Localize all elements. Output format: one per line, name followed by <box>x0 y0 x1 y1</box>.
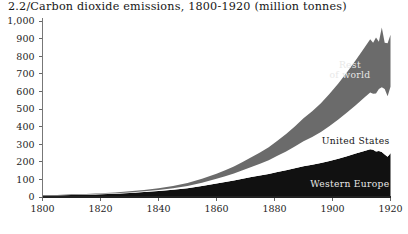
y-tick-label: 300 <box>16 139 34 150</box>
x-tick-label: 1800 <box>30 203 54 214</box>
y-tick-label: 1,000 <box>7 15 34 26</box>
stacked-area-chart: 01002003004005006007008009001,000 180018… <box>0 0 408 234</box>
x-tick-label: 1920 <box>378 203 402 214</box>
y-tick-label: 600 <box>16 86 34 97</box>
y-tick-label: 400 <box>16 121 34 132</box>
y-tick-label: 900 <box>16 33 34 44</box>
series-label-rest-of-world-line2: of world <box>329 69 370 80</box>
y-axis-tickmarks <box>39 21 43 197</box>
x-tick-label: 1900 <box>320 203 344 214</box>
x-tick-label: 1820 <box>88 203 112 214</box>
x-tick-label: 1840 <box>146 203 170 214</box>
y-tick-label: 800 <box>16 51 34 62</box>
area-series-group <box>43 28 391 197</box>
x-axis-tickmarks <box>43 197 391 201</box>
y-tick-label: 200 <box>16 156 34 167</box>
y-tick-label: 100 <box>16 174 34 185</box>
y-axis-tick-labels: 01002003004005006007008009001,000 <box>7 15 34 202</box>
y-tick-label: 500 <box>16 103 34 114</box>
series-label-western-europe: Western Europe <box>310 178 389 189</box>
series-label-united-states: United States <box>322 135 390 146</box>
x-tick-label: 1860 <box>204 203 228 214</box>
x-tick-label: 1880 <box>262 203 286 214</box>
plot-area: 01002003004005006007008009001,000 180018… <box>0 0 408 234</box>
x-axis-tick-labels: 1800182018401860188019001920 <box>30 203 402 214</box>
figure-root: 2.2/Carbon dioxide emissions, 1800-1920 … <box>0 0 408 234</box>
y-tick-label: 0 <box>28 191 34 202</box>
y-tick-label: 700 <box>16 68 34 79</box>
